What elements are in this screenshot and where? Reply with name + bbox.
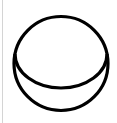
outer-circle <box>14 17 108 111</box>
circle-crescent-icon <box>0 0 117 123</box>
inner-arc <box>15 54 107 88</box>
